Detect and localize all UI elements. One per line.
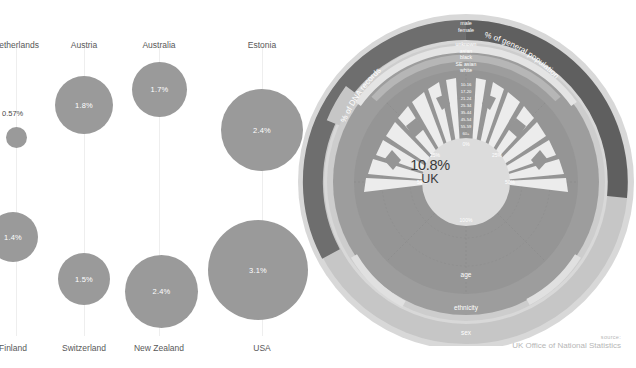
bubble-australia[interactable]: 1.7% xyxy=(132,62,187,117)
center-value: 10.8% xyxy=(401,158,459,173)
country-label-estonia: Estonia xyxy=(222,40,302,50)
ring-label-sex: sex xyxy=(461,329,472,336)
source-attribution: source: UK Office of National Statistics xyxy=(512,334,621,352)
radial-chart: % of DNA records % of general population… xyxy=(296,0,636,346)
label-age-45-54: 45-54 xyxy=(461,117,472,122)
bubble-estonia-value: 2.4% xyxy=(253,126,271,135)
label-ethnicity-white: white xyxy=(460,67,472,73)
source-label: source: xyxy=(512,334,621,341)
country-label-austria: Austria xyxy=(44,40,124,50)
tick-0-percent: 0% xyxy=(462,141,470,147)
center-statistic: 10.8% UK xyxy=(401,158,459,186)
bubble-switzerland-value: 1.5% xyxy=(75,275,93,284)
tick-25-percent-right: 25% xyxy=(492,152,503,158)
tick-50-percent-right: 50% xyxy=(505,179,516,185)
bubble-usa-value: 3.1% xyxy=(249,266,267,275)
label-ethnicity-asian: asian xyxy=(460,48,473,54)
bubble-finland-value: 1.4% xyxy=(4,233,22,242)
label-sex-female: female xyxy=(458,27,474,33)
ring-label-age: age xyxy=(461,271,472,279)
label-age-17-20: 17-20 xyxy=(461,89,472,94)
source-organisation: UK Office of National Statistics xyxy=(512,341,621,352)
bubble-estonia[interactable]: 2.4% xyxy=(221,89,303,171)
bubble-austria[interactable]: 1.8% xyxy=(55,76,113,134)
bubble-finland[interactable]: 1.4% xyxy=(0,212,38,262)
label-ethnicity-black: black xyxy=(460,54,473,60)
column-guide xyxy=(16,46,17,336)
country-label-switzerland: Switzerland xyxy=(44,343,124,353)
bubble-australia-value: 1.7% xyxy=(151,85,169,94)
label-age-60-plus: 60+ xyxy=(462,131,470,136)
bubble-austria-value: 1.8% xyxy=(75,101,93,110)
label-sex-male: male xyxy=(460,20,472,26)
center-country: UK xyxy=(401,173,459,186)
bubble-newzealand[interactable]: 2.4% xyxy=(125,255,198,328)
country-label-newzealand: New Zealand xyxy=(119,343,199,353)
label-age-21-24: 21-24 xyxy=(461,96,472,101)
tick-100-percent: 100% xyxy=(460,217,473,223)
ring-label-ethnicity: ethnicity xyxy=(454,304,479,312)
country-label-usa: USA xyxy=(222,343,302,353)
label-age-25-34: 25-34 xyxy=(461,103,472,108)
bubble-switzerland[interactable]: 1.5% xyxy=(58,253,110,305)
bubble-chart-panel: Netherlands Austria Australia Estonia 0.… xyxy=(0,0,330,368)
bubble-newzealand-value: 2.4% xyxy=(153,287,171,296)
label-age-55-59: 55-59 xyxy=(461,124,472,129)
label-ethnicity-unknown: unknown xyxy=(456,41,477,47)
label-age-35-44: 35-44 xyxy=(461,110,472,115)
radial-chart-svg: % of DNA records % of general population… xyxy=(296,0,636,346)
label-age-10-16: 10-16 xyxy=(461,82,472,87)
bubble-netherlands[interactable] xyxy=(6,127,27,148)
country-label-australia: Australia xyxy=(119,40,199,50)
bubble-usa[interactable]: 3.1% xyxy=(208,220,308,320)
label-ethnicity-se-asian: SE asian xyxy=(456,61,477,67)
bubble-netherlands-value: 0.57% xyxy=(2,109,23,118)
